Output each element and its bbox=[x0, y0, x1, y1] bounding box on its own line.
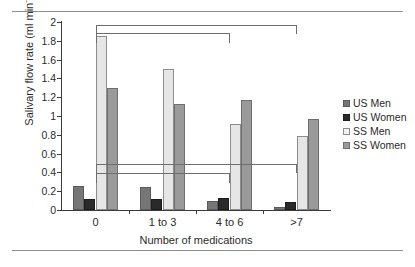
sig-bracket-ss-0-vs-4to6 bbox=[96, 33, 230, 42]
y-tick-mark bbox=[57, 135, 61, 136]
sig-bracket-us-0-vs-gt7 bbox=[96, 164, 297, 173]
bar-ss-women-2 bbox=[241, 100, 252, 210]
x-tick-label: >7 bbox=[257, 217, 337, 228]
legend-item-us-women[interactable]: US Women bbox=[343, 111, 413, 124]
y-tick-mark bbox=[57, 154, 61, 155]
legend-item-label: SS Men bbox=[353, 126, 390, 137]
bar-ss-women-1 bbox=[174, 104, 185, 210]
legend-item-us-men[interactable]: US Men bbox=[343, 97, 413, 110]
y-tick-mark bbox=[57, 41, 61, 42]
bar-ss-men-1 bbox=[163, 69, 174, 210]
legend-item-ss-women[interactable]: SS Women bbox=[343, 139, 413, 152]
y-tick-label: 0.8 bbox=[4, 130, 56, 141]
figure-container: 00.20.40.60.811.21.41.61.82 01 to 34 to … bbox=[0, 0, 415, 267]
bar-us-women-2 bbox=[218, 198, 229, 210]
y-tick-mark bbox=[57, 22, 61, 23]
bar-ss-men-3 bbox=[297, 136, 308, 210]
x-tick-mark bbox=[196, 210, 197, 214]
x-tick-mark bbox=[129, 210, 130, 214]
legend-swatch-icon-us-men bbox=[343, 100, 350, 107]
x-tick-mark bbox=[263, 210, 264, 214]
y-tick-label: 0 bbox=[4, 205, 56, 216]
plot-area bbox=[62, 22, 330, 210]
bar-us-men-0 bbox=[73, 186, 84, 210]
x-axis-title: Number of medications bbox=[62, 234, 330, 246]
legend-item-ss-men[interactable]: SS Men bbox=[343, 125, 413, 138]
legend-item-label: US Men bbox=[353, 98, 391, 109]
y-tick-mark bbox=[57, 97, 61, 98]
y-tick-label: 0.2 bbox=[4, 186, 56, 197]
bar-us-men-2 bbox=[207, 201, 218, 210]
bar-us-women-3 bbox=[285, 202, 296, 210]
bar-us-women-0 bbox=[84, 199, 95, 210]
figure-top-rule bbox=[12, 11, 403, 12]
y-axis-title: Salivary flow rate (ml min-1) bbox=[21, 0, 35, 129]
y-tick-mark bbox=[57, 210, 61, 211]
y-axis-title-superscript: -1 bbox=[21, 0, 30, 3]
y-axis-title-text: Salivary flow rate (ml min bbox=[23, 3, 35, 126]
legend-item-label: US Women bbox=[353, 112, 407, 123]
bar-us-men-1 bbox=[140, 187, 151, 210]
bar-ss-women-3 bbox=[308, 119, 319, 210]
figure-bottom-rule bbox=[12, 250, 403, 251]
legend-swatch-icon-ss-women bbox=[343, 142, 350, 149]
bar-us-women-1 bbox=[151, 199, 162, 210]
y-tick-mark bbox=[57, 191, 61, 192]
sig-bracket-us-0-vs-4to6 bbox=[96, 173, 230, 182]
y-tick-label: 0.4 bbox=[4, 167, 56, 178]
bar-ss-women-0 bbox=[107, 88, 118, 210]
y-tick-mark bbox=[57, 78, 61, 79]
legend-item-label: SS Women bbox=[353, 140, 406, 151]
bar-us-men-3 bbox=[274, 207, 285, 210]
y-tick-mark bbox=[57, 60, 61, 61]
y-tick-label: 0.6 bbox=[4, 149, 56, 160]
legend-swatch-icon-ss-men bbox=[343, 128, 350, 135]
bar-ss-men-0 bbox=[96, 36, 107, 210]
chart-legend: US MenUS WomenSS MenSS Women bbox=[343, 97, 413, 153]
y-tick-mark bbox=[57, 116, 61, 117]
y-tick-mark bbox=[57, 172, 61, 173]
legend-swatch-icon-us-women bbox=[343, 114, 350, 121]
